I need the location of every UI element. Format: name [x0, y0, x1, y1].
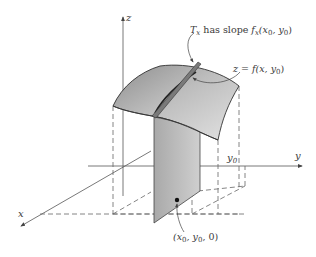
tx-text: has slope [200, 24, 251, 35]
tx-args-close: ) [288, 24, 292, 35]
tx-args-mid: , y [272, 24, 283, 35]
x-axis [21, 151, 151, 226]
pt-open: (x [173, 231, 182, 242]
pt-mid: , y [187, 231, 198, 242]
base-point [175, 198, 179, 202]
curve-equation-annotation: z = f(x, y0) [233, 64, 284, 76]
base-region-dashed [40, 166, 245, 214]
z-axis-label: z [126, 13, 131, 23]
point-leader [177, 204, 184, 232]
partial-derivative-diagram [0, 0, 316, 257]
tangent-leader [188, 33, 194, 62]
zf-eq: = [238, 63, 252, 74]
zf-rhs-open: f(x, y [252, 63, 276, 74]
tangent-slope-annotation: Tx has slope fx(x0, y0) [190, 25, 292, 37]
pt-close: , 0) [202, 231, 218, 242]
point-annotation: (x0, y0, 0) [173, 232, 218, 244]
tx-args-open: (x [259, 24, 268, 35]
y0-sub: 0 [233, 157, 237, 165]
y0-tick-label: y0 [227, 153, 237, 165]
x-axis-label: x [18, 209, 24, 219]
zf-rhs-close: ) [280, 63, 284, 74]
y-axis-label: y [295, 151, 301, 161]
